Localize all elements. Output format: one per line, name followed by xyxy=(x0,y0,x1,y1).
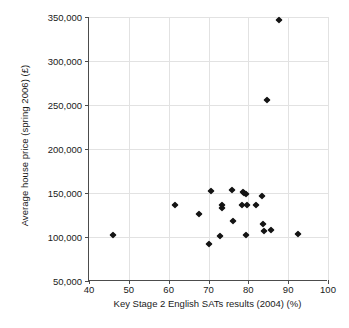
data-point xyxy=(205,240,212,247)
x-axis-tick-label: 90 xyxy=(283,284,294,295)
y-axis-tick-label: 250,000 xyxy=(48,100,82,111)
data-point xyxy=(263,96,270,103)
y-axis-tick xyxy=(85,17,89,18)
x-axis-tick-label: 70 xyxy=(203,284,214,295)
data-point xyxy=(217,232,224,239)
x-axis-tick-label: 60 xyxy=(163,284,174,295)
data-point xyxy=(267,226,274,233)
y-axis-tick xyxy=(85,105,89,106)
x-axis-tick-label: 50 xyxy=(124,284,135,295)
y-axis-tick-label: 350,000 xyxy=(48,12,82,23)
gridline-vertical xyxy=(129,17,130,281)
x-axis-title: Key Stage 2 English SATs results (2004) … xyxy=(88,298,327,309)
y-axis-title: Average house price (spring 2006) (£) xyxy=(19,16,30,276)
gridline-vertical xyxy=(328,17,329,281)
gridline-vertical xyxy=(169,17,170,281)
scatter-chart-figure: Average house price (spring 2006) (£) Ke… xyxy=(0,0,349,328)
gridline-vertical xyxy=(288,17,289,281)
x-axis-tick-label: 100 xyxy=(320,284,336,295)
y-axis-tick xyxy=(85,193,89,194)
y-axis-tick-label: 200,000 xyxy=(48,144,82,155)
y-axis-tick xyxy=(85,61,89,62)
x-axis-tick-label: 80 xyxy=(243,284,254,295)
gridline-vertical xyxy=(248,17,249,281)
y-axis-tick-label: 50,000 xyxy=(53,276,82,287)
data-point xyxy=(195,211,202,218)
y-axis-tick xyxy=(85,237,89,238)
plot-area: 50,000100,000150,000200,000250,000300,00… xyxy=(88,17,327,281)
data-point xyxy=(252,201,259,208)
data-point xyxy=(171,201,178,208)
y-axis-tick-label: 100,000 xyxy=(48,232,82,243)
x-axis-tick-label: 40 xyxy=(84,284,95,295)
y-axis-tick-label: 300,000 xyxy=(48,56,82,67)
data-point xyxy=(260,228,267,235)
y-axis-tick xyxy=(85,149,89,150)
data-point xyxy=(230,218,237,225)
y-axis-tick-label: 150,000 xyxy=(48,188,82,199)
